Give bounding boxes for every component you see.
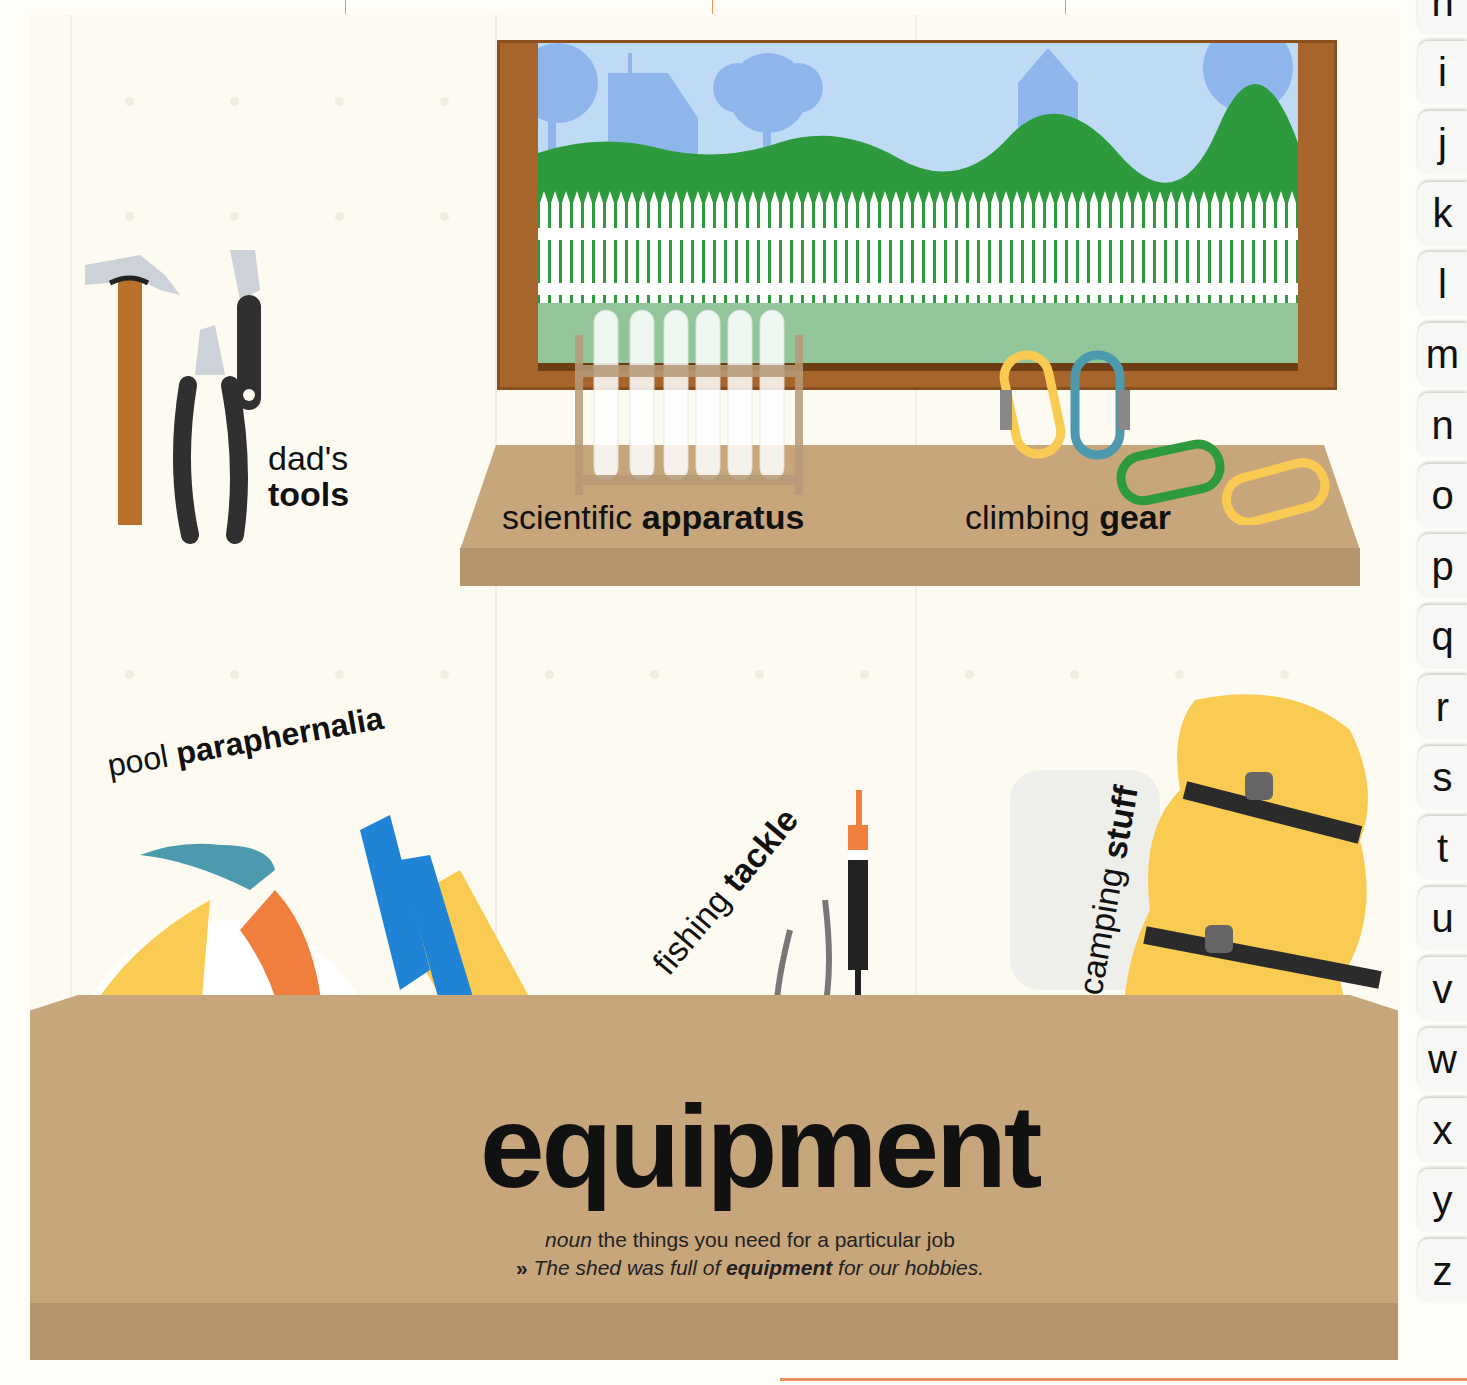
alphabet-tab-v[interactable]: v [1418,957,1467,1021]
alphabet-tab-x[interactable]: x [1418,1098,1467,1162]
peg-hole [1175,670,1184,679]
peg-hole [230,670,239,679]
peg-hole [545,670,554,679]
alphabet-tab-u[interactable]: u [1418,887,1467,951]
accent-rule [780,1378,1467,1381]
tools-icon [80,245,280,545]
peg-hole [965,670,974,679]
peg-hole [440,97,449,106]
peg-hole [860,670,869,679]
alphabet-tab-h[interactable]: h [1418,0,1467,34]
example-marker-icon: » [516,1256,528,1279]
alphabet-tab-o[interactable]: o [1418,464,1467,528]
peg-hole [440,670,449,679]
peg-hole [1070,670,1079,679]
peg-hole [125,670,134,679]
label-apparatus-bold: apparatus [642,498,805,536]
example-bold: equipment [726,1256,832,1279]
workbench-front [30,1303,1398,1360]
alphabet-tab-w[interactable]: w [1418,1028,1467,1092]
alphabet-tab-k[interactable]: k [1418,182,1467,246]
alphabet-tab-m[interactable]: m [1418,323,1467,387]
top-strip [0,0,1400,14]
test-tube-rack-icon [570,305,810,495]
divider [712,0,713,14]
alphabet-tab-z[interactable]: z [1418,1239,1467,1303]
alphabet-tab-s[interactable]: s [1418,746,1467,810]
alphabet-tab-i[interactable]: i [1418,41,1467,105]
definition: noun the things you need for a particula… [480,1228,1020,1252]
alphabet-tabs: hijklmnopqrstuvwxyz [1418,0,1467,1360]
upper-shelf-front [460,548,1360,586]
label-gear-bold: gear [1099,498,1171,536]
alphabet-tab-j[interactable]: j [1418,111,1467,175]
peg-hole [335,212,344,221]
peg-hole [230,97,239,106]
alphabet-tab-l[interactable]: l [1418,252,1467,316]
divider [345,0,346,14]
alphabet-tab-y[interactable]: y [1418,1169,1467,1233]
label-tools-bold: tools [268,475,349,513]
peg-hole [440,212,449,221]
label-apparatus: scientific apparatus [502,498,804,537]
label-tools-regular: dad's [268,440,349,476]
alphabet-tab-r[interactable]: r [1418,675,1467,739]
alphabet-tab-q[interactable]: q [1418,605,1467,669]
example-before: The shed was full of [533,1256,720,1279]
alphabet-tab-p[interactable]: p [1418,534,1467,598]
label-gear: climbing gear [965,498,1171,537]
part-of-speech: noun [545,1228,592,1251]
peg-hole [1280,670,1289,679]
peg-hole [755,670,764,679]
label-gear-regular: climbing [965,498,1090,536]
label-apparatus-regular: scientific [502,498,632,536]
headword: equipment [480,1080,1039,1214]
peg-hole [650,670,659,679]
alphabet-tab-t[interactable]: t [1418,816,1467,880]
example-after: for our hobbies. [838,1256,984,1279]
example-sentence: » The shed was full of equipment for our… [470,1256,1030,1280]
alphabet-tab-n[interactable]: n [1418,393,1467,457]
peg-hole [125,97,134,106]
label-tools: dad's tools [268,440,349,512]
peg-hole [335,670,344,679]
peg-hole [125,212,134,221]
peg-hole [230,212,239,221]
definition-text: the things you need for a particular job [598,1228,955,1251]
peg-hole [335,97,344,106]
divider [1065,0,1066,14]
